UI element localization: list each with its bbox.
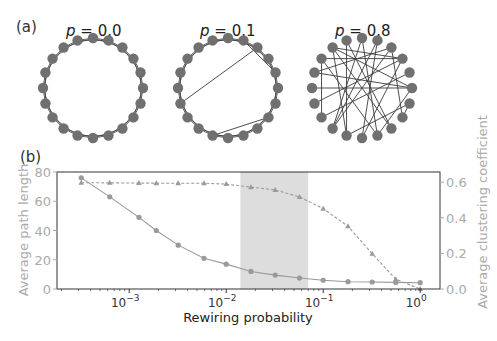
panel-b: (b) 10−310−210−1100 020406080 0.00.20.40… — [16, 115, 490, 325]
clustering-marker — [320, 206, 326, 211]
x-tick-label: 10−2 — [208, 293, 237, 310]
network-nodes — [38, 33, 148, 143]
network-node — [397, 112, 407, 122]
network-node — [193, 123, 203, 133]
network-node — [270, 98, 280, 108]
y-tick-label: 20 — [34, 253, 51, 268]
network-node — [316, 53, 326, 63]
network-node — [309, 98, 319, 108]
network-node — [58, 42, 68, 52]
network-node — [207, 130, 217, 140]
x-axis-ticks: 10−310−210−1100 — [61, 289, 427, 310]
network-node — [316, 112, 326, 122]
network-node — [238, 130, 248, 140]
network-node — [357, 133, 367, 143]
path-length-marker — [107, 194, 112, 199]
network-edge — [314, 59, 402, 104]
path-length-marker — [345, 279, 350, 284]
network-node — [223, 133, 233, 143]
network-node — [117, 123, 127, 133]
network-node — [193, 42, 203, 52]
y-tick-label: 0 — [43, 282, 51, 297]
path-length-marker — [201, 256, 206, 261]
network-node — [404, 67, 414, 77]
network-node — [252, 42, 262, 52]
network-edges — [43, 38, 143, 138]
network-node — [341, 35, 351, 45]
network-node — [397, 53, 407, 63]
path-length-marker — [224, 262, 229, 267]
y-tick-label: 60 — [34, 194, 51, 209]
network-node — [128, 53, 138, 63]
network-node — [175, 67, 185, 77]
path-length-marker — [136, 215, 141, 220]
x-tick-label: 10−1 — [305, 293, 334, 310]
path-length-marker — [418, 280, 423, 285]
network-node — [263, 112, 273, 122]
network-p-0-1: p = 0.1 — [173, 22, 283, 143]
network-p-0-0: p = 0.0 — [38, 22, 148, 143]
network-edges — [178, 38, 278, 138]
network-node — [117, 42, 127, 52]
panel-a-label: (a) — [16, 18, 37, 36]
network-node — [404, 98, 414, 108]
network-node — [223, 33, 233, 43]
network-node — [207, 35, 217, 45]
clustering-marker — [223, 181, 229, 186]
panel-a: (a) p = 0.0 p = 0.1 p = 0.8 — [16, 18, 417, 143]
path-length-marker — [154, 228, 159, 233]
network-node — [307, 83, 317, 93]
network-node — [72, 35, 82, 45]
network-node — [327, 123, 337, 133]
y2-tick-label: 0.2 — [446, 246, 467, 261]
network-node — [175, 98, 185, 108]
network-node — [327, 42, 337, 52]
network-node — [341, 130, 351, 140]
network-node — [40, 98, 50, 108]
network-p-0-8: p = 0.8 — [307, 22, 417, 143]
network-node — [173, 83, 183, 93]
y2-tick-label: 0.4 — [446, 211, 467, 226]
network-node — [47, 112, 57, 122]
network-node — [103, 35, 113, 45]
network-node — [252, 123, 262, 133]
y-tick-label: 80 — [34, 165, 51, 180]
network-node — [128, 112, 138, 122]
network-edge — [333, 38, 362, 128]
network-node — [182, 112, 192, 122]
path-length-marker — [176, 243, 181, 248]
network-node — [386, 42, 396, 52]
network-node — [88, 133, 98, 143]
network-node — [88, 33, 98, 43]
y-axis-left-ticks: 020406080 — [34, 165, 57, 297]
y-axis-right-title: Average clustering coefficient — [475, 115, 490, 309]
path-length-marker — [321, 278, 326, 283]
y-axis-right-ticks: 0.00.20.40.6 — [440, 175, 467, 297]
network-node — [263, 53, 273, 63]
y-tick-label: 40 — [34, 224, 51, 239]
network-node — [273, 83, 283, 93]
x-tick-label: 100 — [406, 293, 427, 310]
network-node — [135, 98, 145, 108]
network-node — [103, 130, 113, 140]
network-node — [407, 83, 417, 93]
network-node — [238, 35, 248, 45]
network-node — [138, 83, 148, 93]
x-tick-label: 10−3 — [111, 293, 140, 310]
path-length-marker — [370, 279, 375, 284]
network-node — [47, 53, 57, 63]
panel-b-label: (b) — [20, 148, 41, 166]
network-node — [135, 67, 145, 77]
network-node — [309, 67, 319, 77]
network-node — [386, 123, 396, 133]
network-node — [372, 35, 382, 45]
path-length-marker — [297, 275, 302, 280]
network-node — [357, 33, 367, 43]
clustering-marker — [345, 223, 351, 228]
network-node — [270, 67, 280, 77]
network-node — [38, 83, 48, 93]
y-axis-left-title: Average path length — [16, 164, 31, 297]
path-length-marker — [248, 269, 253, 274]
network-node — [58, 123, 68, 133]
y2-tick-label: 0.6 — [446, 175, 467, 190]
